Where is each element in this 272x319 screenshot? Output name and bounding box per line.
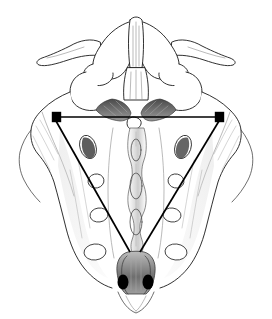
landmark-square-left[interactable]	[52, 112, 61, 122]
landmark-square-right[interactable]	[215, 112, 224, 122]
landmark-dot-left[interactable]	[118, 275, 129, 290]
landmark-dot-right[interactable]	[143, 275, 154, 290]
sacrum-illustration	[0, 0, 272, 319]
sacral-canal-opening	[127, 117, 141, 129]
sacrum-figure: Sacrum posterior view with landmark meas…	[0, 0, 272, 319]
